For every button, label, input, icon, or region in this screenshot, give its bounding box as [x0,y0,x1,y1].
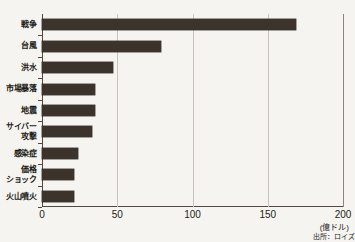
x-tick-label-100: 100 [184,209,201,220]
bar [42,62,113,73]
source-note: 出所：ロイズ [313,231,355,241]
category-label: 市場暴落 [0,84,37,94]
y-axis-tick [38,207,42,208]
category-label: 火山噴火 [0,192,37,202]
bar-row [42,164,74,185]
bar [42,126,92,137]
bar [42,169,74,180]
category-axis-labels: 戦争台風洪水市場暴落地震サイバー 攻撃感染症価格 ショック火山噴火 [0,14,40,207]
x-tick-label-150: 150 [259,209,276,220]
category-label: 価格 ショック [0,165,37,184]
bar [42,41,161,52]
gridline-100 [193,14,194,207]
x-tick-label-0: 0 [39,209,45,220]
category-label: 戦争 [0,20,37,30]
bar [42,105,95,116]
bar-row [42,100,95,121]
category-label: サイバー 攻撃 [0,122,37,141]
x-axis-tick-labels: 050100150200 [0,209,353,223]
bar-row [42,35,161,56]
bar-row [42,186,74,207]
category-label: 台風 [0,41,37,51]
bar-row [42,143,78,164]
bar [42,191,74,202]
bar-row [42,57,113,78]
bar [42,84,95,95]
plot-area [42,14,343,207]
gridline-200 [343,14,344,207]
bar-row [42,121,92,142]
bar-row [42,78,95,99]
category-label: 地震 [0,106,37,116]
category-label: 洪水 [0,63,37,73]
bar [42,19,296,30]
gridline-150 [268,14,269,207]
x-tick-label-200: 200 [335,209,352,220]
bar [42,148,78,159]
x-tick-label-50: 50 [112,209,123,220]
bar-row [42,14,296,35]
category-label: 感染症 [0,149,37,159]
